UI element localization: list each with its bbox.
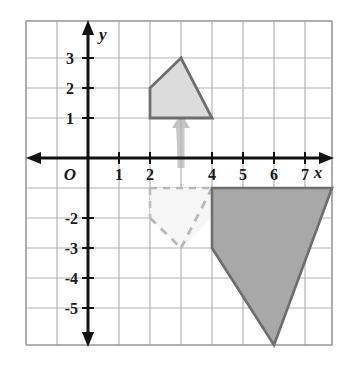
x-tick-label-6: 6: [270, 166, 278, 183]
y-tick-label-neg5: -5: [65, 300, 78, 317]
origin-label: O: [64, 165, 76, 184]
x-tick-label-4: 4: [208, 166, 216, 183]
y-tick-label-neg4: -4: [65, 270, 78, 287]
y-tick-label-2: 2: [66, 80, 74, 97]
upward-motion-arrow-icon: [172, 113, 190, 168]
y-axis-label: y: [97, 25, 107, 44]
reflected-dashed-pentagon: [150, 188, 212, 248]
x-axis-label: x: [313, 163, 323, 182]
y-tick-label-3: 3: [66, 50, 74, 67]
x-tick-label-7: 7: [301, 166, 309, 183]
x-axis-left-arrowhead: [26, 152, 41, 164]
y-axis-top-arrowhead: [82, 20, 94, 35]
x-tick-label-1: 1: [115, 166, 123, 183]
y-tick-label-neg3: -3: [65, 240, 78, 257]
large-gray-quadrilateral: [212, 188, 332, 345]
y-axis: [82, 20, 94, 347]
coordinate-plane-canvas: y x O 3 2 1 -2 -3 -4 -5 1 2 4 5 6 7: [0, 0, 355, 375]
coordinate-plane-figure: y x O 3 2 1 -2 -3 -4 -5 1 2 4 5 6 7: [0, 0, 355, 375]
y-tick-label-1: 1: [66, 110, 74, 127]
x-tick-label-2: 2: [146, 166, 154, 183]
x-tick-label-5: 5: [239, 166, 247, 183]
y-tick-label-neg2: -2: [65, 210, 78, 227]
